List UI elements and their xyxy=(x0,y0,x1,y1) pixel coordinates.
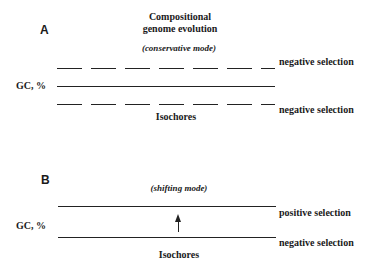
panel-a-letter: A xyxy=(40,23,49,37)
panel-a-upper-label: negative selection xyxy=(279,56,354,67)
panel-b-lower-label: negative selection xyxy=(279,237,354,248)
panel-a-upper-dashed-line xyxy=(57,68,275,69)
panel-a-lower-dashed-line xyxy=(57,104,275,105)
panel-b-mode: (shifting mode) xyxy=(151,183,208,193)
diagram-title: Compositional genome evolution xyxy=(143,11,218,35)
panel-b-y-label: GC, % xyxy=(16,220,46,231)
panel-b-upper-line xyxy=(58,206,276,207)
title-line-1: Compositional xyxy=(143,11,218,23)
panel-a-solid-line xyxy=(57,86,275,87)
title-line-2: genome evolution xyxy=(143,23,218,35)
panel-b-lower-line xyxy=(58,237,276,238)
panel-a-mode: (conservative mode) xyxy=(142,43,216,53)
panel-a-lower-label: negative selection xyxy=(279,104,354,115)
panel-b-x-label: Isochores xyxy=(159,249,199,260)
panel-b-letter: B xyxy=(41,173,50,187)
panel-b-upper-label: positive selection xyxy=(279,207,351,218)
panel-a-x-label: Isochores xyxy=(156,111,196,122)
panel-a-y-label: GC, % xyxy=(16,80,46,91)
